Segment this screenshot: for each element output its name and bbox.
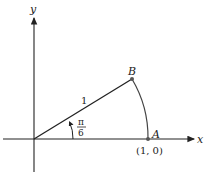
point-B-label: B: [127, 65, 136, 78]
x-axis-label: x: [197, 133, 204, 146]
y-axis-label: y: [29, 3, 37, 16]
segment-length-label: 1: [81, 95, 87, 106]
point-A: [146, 137, 150, 141]
arc-AB: [132, 79, 148, 139]
angle-denominator: 6: [78, 128, 84, 138]
point-A-coord-label: (1, 0): [136, 145, 163, 156]
angle-numerator: π: [78, 117, 84, 127]
angle-arc: [70, 122, 74, 139]
point-A-label: A: [151, 128, 160, 141]
unit-circle-diagram: y x B A (1, 0) 1 π 6: [0, 0, 208, 180]
